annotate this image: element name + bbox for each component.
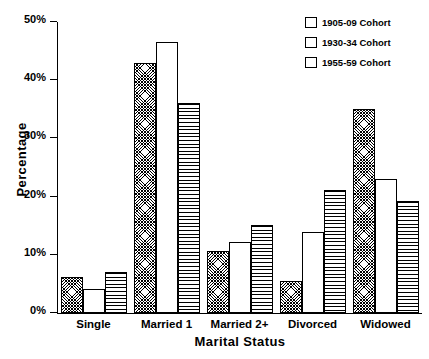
y-axis-tick: 0% <box>50 312 57 313</box>
legend-item: 1905-09 Cohort <box>305 14 425 31</box>
y-axis-tick: 50% <box>50 21 57 22</box>
y-axis-tick: 30% <box>50 137 57 138</box>
y-axis-tick-label: 50% <box>24 13 46 25</box>
x-axis-category-label: Divorced <box>276 318 349 330</box>
legend-label: 1955-59 Cohort <box>322 57 391 68</box>
bar-group <box>61 22 127 313</box>
legend-label: 1930-34 Cohort <box>322 37 391 48</box>
bar <box>324 190 346 313</box>
y-axis-tick-label: 0% <box>30 304 46 316</box>
x-axis-category-label: Married 1 <box>130 318 203 330</box>
bar <box>375 179 397 313</box>
y-axis-tick-label: 20% <box>24 188 46 200</box>
legend-swatch <box>305 37 317 48</box>
legend-item: 1955-59 Cohort <box>305 54 425 71</box>
bar-group <box>134 22 200 313</box>
y-axis-tick-label: 10% <box>24 246 46 258</box>
bar <box>134 63 156 313</box>
bar-chart: Percentage 0%10%20%30%40%50% SingleMarri… <box>0 0 429 359</box>
bar <box>229 242 251 313</box>
y-axis-tick: 10% <box>50 254 57 255</box>
bar <box>156 42 178 313</box>
bar <box>207 251 229 313</box>
x-axis-category-label: Single <box>57 318 130 330</box>
legend-swatch <box>305 57 317 68</box>
x-axis-line <box>57 313 422 314</box>
legend-label: 1905-09 Cohort <box>322 17 391 28</box>
legend: 1905-09 Cohort1930-34 Cohort1955-59 Coho… <box>305 14 425 74</box>
bar <box>61 277 83 313</box>
x-axis-title: Marital Status <box>55 334 425 349</box>
y-axis-tick-label: 40% <box>24 71 46 83</box>
legend-item: 1930-34 Cohort <box>305 34 425 51</box>
bar <box>280 281 302 313</box>
x-axis-category-label: Married 2+ <box>203 318 276 330</box>
bar <box>397 201 419 313</box>
bar <box>302 232 324 313</box>
bar <box>105 272 127 313</box>
bar <box>83 289 105 313</box>
y-axis-line <box>57 22 58 314</box>
bar <box>251 225 273 313</box>
y-axis-tick: 20% <box>50 196 57 197</box>
y-axis-tick-label: 30% <box>24 129 46 141</box>
x-axis-category-label: Widowed <box>349 318 422 330</box>
bar <box>178 103 200 313</box>
y-axis-title: Percentage <box>14 95 29 225</box>
bar-group <box>207 22 273 313</box>
y-axis-tick: 40% <box>50 79 57 80</box>
legend-swatch <box>305 17 317 28</box>
bar <box>353 109 375 313</box>
